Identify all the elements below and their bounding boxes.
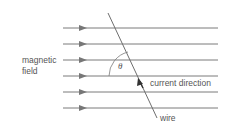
arrow-right-icon — [79, 105, 87, 111]
magnetic-field-label: magnetic field — [22, 55, 57, 77]
arrow-right-icon — [79, 89, 87, 95]
wire-label: wire — [160, 113, 176, 124]
current-direction-arrow-icon — [137, 78, 143, 88]
field-arrowheads — [79, 25, 87, 111]
wire — [108, 13, 157, 118]
theta-label: θ — [118, 61, 122, 72]
arrow-right-icon — [79, 41, 87, 47]
arrow-right-icon — [79, 25, 87, 31]
current-direction-label: current direction — [150, 78, 211, 89]
arrow-right-icon — [79, 57, 87, 63]
field-lines — [63, 28, 218, 108]
magnetic-field-label-line1: magnetic — [22, 55, 57, 66]
arrow-right-icon — [79, 73, 87, 79]
magnetic-field-label-line2: field — [22, 66, 57, 77]
